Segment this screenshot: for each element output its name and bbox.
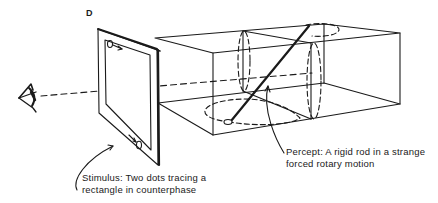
line-of-sight: [41, 73, 312, 96]
panel-label: D: [86, 8, 93, 18]
perspective-box: [155, 24, 400, 135]
screen-panel: [98, 29, 160, 165]
stimulus-caption-line2: rectangle in counterphase: [82, 184, 196, 196]
diagram-canvas: [0, 0, 438, 203]
rotation-paths: [205, 24, 339, 125]
rod-end-dot: [224, 120, 232, 125]
percept-caption-line1: Percept: A rigid rod in a strange: [286, 146, 425, 158]
percept-caption-line2: forced rotary motion: [286, 158, 374, 170]
stimulus-caption-line1: Stimulus: Two dots tracing a: [82, 172, 206, 184]
eye-icon: [19, 84, 36, 112]
